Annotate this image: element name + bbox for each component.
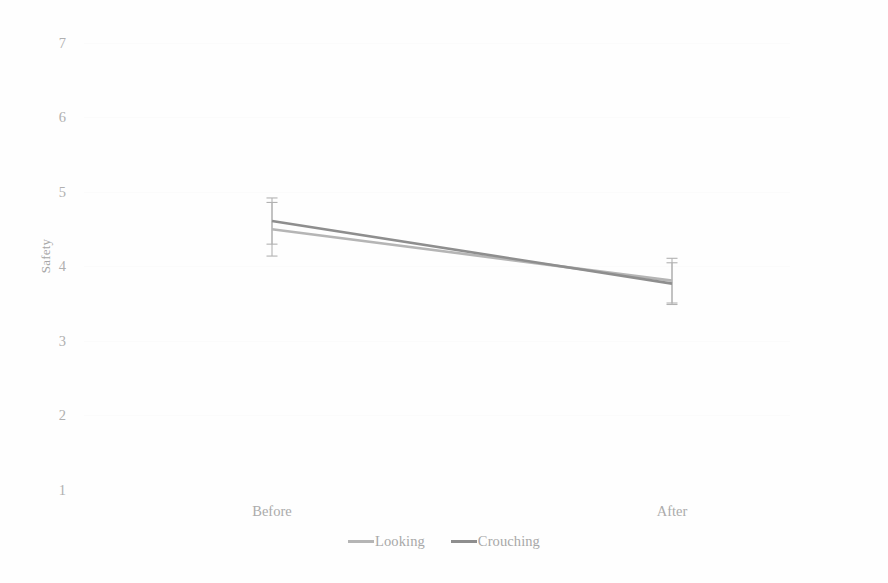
- legend-item-crouching: Crouching: [451, 533, 540, 550]
- legend-item-looking: Looking: [348, 533, 425, 550]
- chart-figure: Safety 7 6 5 4 3 2 1 Before After Lookin…: [0, 0, 888, 583]
- series-line-crouching: [272, 221, 672, 284]
- legend-swatch-crouching: [451, 540, 477, 543]
- plot-area: [0, 0, 888, 583]
- legend-label-crouching: Crouching: [478, 533, 540, 550]
- legend-swatch-looking: [348, 540, 374, 543]
- x-tick-label-after: After: [592, 503, 752, 520]
- x-tick-label-before: Before: [192, 503, 352, 520]
- legend-label-looking: Looking: [375, 533, 425, 550]
- chart-legend: Looking Crouching: [0, 533, 888, 550]
